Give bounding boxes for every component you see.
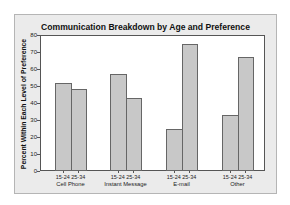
x-tick-label: 25-34 [235,174,255,180]
x-category-label: Other [203,181,273,187]
x-tick-label: 25-34 [179,174,199,180]
y-tick-label: 20 [23,134,37,140]
x-tick-mark [230,171,231,173]
y-tick-mark [37,69,40,70]
y-tick-mark [37,137,40,138]
y-tick-label: 0 [23,168,37,174]
bar-instant-message-15-24 [110,74,127,171]
bar-instant-message-25-34 [126,98,143,171]
y-tick-label: 10 [23,151,37,157]
y-tick-label: 40 [23,100,37,106]
bar-e-mail-25-34 [182,44,199,172]
bar-other-25-34 [238,57,255,171]
y-tick-mark [37,154,40,155]
bar-other-15-24 [222,115,239,171]
y-tick-mark [37,120,40,121]
x-tick-mark [78,171,79,173]
x-tick-mark [118,171,119,173]
x-tick-mark [63,171,64,173]
bar-cell-phone-25-34 [71,89,88,171]
x-tick-mark [133,171,134,173]
bar-cell-phone-15-24 [55,83,72,171]
x-tick-label: 25-34 [68,174,88,180]
y-tick-label: 50 [23,83,37,89]
y-tick-mark [37,86,40,87]
x-tick-label: 25-34 [123,174,143,180]
x-tick-mark [174,171,175,173]
y-tick-label: 30 [23,117,37,123]
y-tick-mark [37,171,40,172]
y-tick-label: 80 [23,32,37,38]
y-tick-label: 70 [23,49,37,55]
x-tick-mark [189,171,190,173]
bar-e-mail-15-24 [166,129,183,172]
y-tick-mark [37,35,40,36]
y-tick-mark [37,52,40,53]
y-tick-mark [37,103,40,104]
x-tick-mark [245,171,246,173]
y-tick-label: 60 [23,66,37,72]
chart-title: Communication Breakdown by Age and Prefe… [14,22,277,32]
